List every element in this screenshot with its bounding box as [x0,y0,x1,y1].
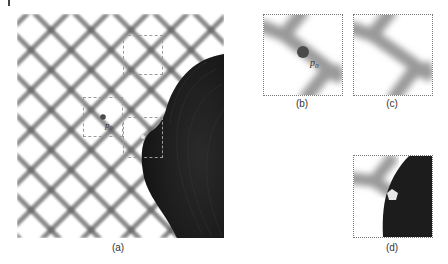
caption-a: (a) [98,242,138,253]
zoomed-patch-b-graphic: p0 [264,15,342,95]
zoomed-patch-d-graphic [354,156,432,237]
margin-mark [8,0,10,6]
caption-c: (c) [372,98,412,109]
panel-c-image [353,14,433,96]
panel-b-image: p0 [263,14,343,96]
dashed-box-c-region [123,35,163,75]
caption-b: (b) [282,98,322,109]
dashed-box-d-region [123,117,163,158]
zoomed-patch-c-graphic [354,15,432,95]
caption-d: (d) [372,242,412,253]
panel-d-image [353,155,433,238]
dashed-box-b-region [83,97,123,137]
